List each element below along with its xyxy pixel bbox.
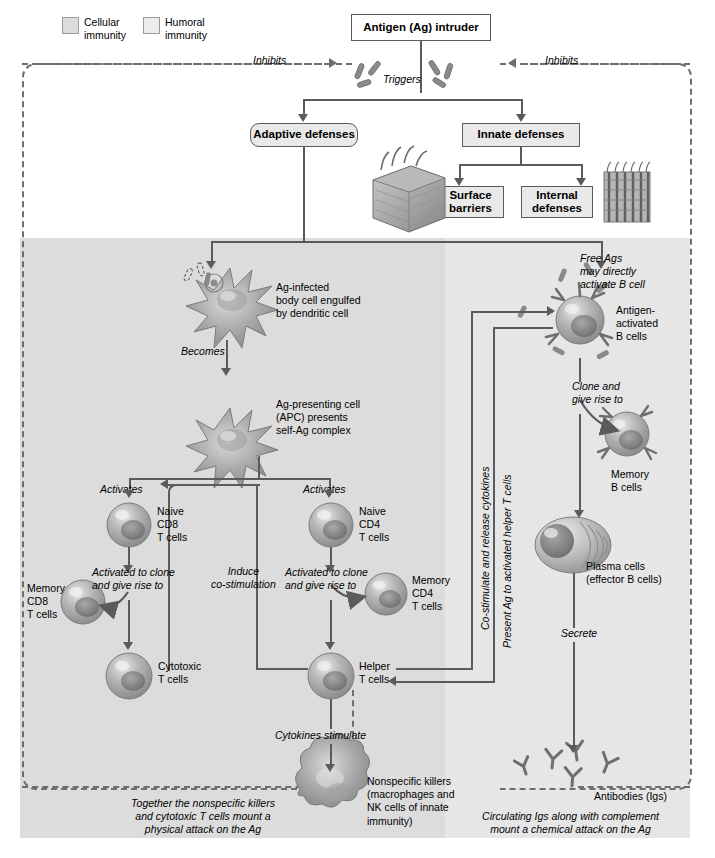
legend-swatch-humoral xyxy=(143,17,160,34)
becomes-stem xyxy=(226,340,228,370)
dendritic-arrow xyxy=(206,261,216,269)
label-memory-cd4: Memory CD4 T cells xyxy=(412,574,450,614)
inhibits-arrow-left xyxy=(329,58,337,68)
label-apc: Ag-presenting cell (APC) presents self-A… xyxy=(276,398,360,438)
innate-split-bar xyxy=(459,164,583,166)
costim-bus-top xyxy=(471,311,553,313)
label-activated-clone-left: Activated to clone and give rise to xyxy=(92,566,175,592)
immune-response-diagram: Cellular immunity Humoral immunity Inhib… xyxy=(0,0,715,858)
activates-label-left: Activates xyxy=(100,483,143,496)
skin-tissue-illustration xyxy=(373,146,445,232)
label-cytotoxic: Cytotoxic T cells xyxy=(158,660,201,686)
adaptive-stem xyxy=(303,147,305,243)
box-antigen-intruder[interactable]: Antigen (Ag) intruder xyxy=(351,14,491,41)
label-cytokines-stimulate: Cytokines stimulate xyxy=(275,729,366,742)
label-ag-infected: Ag-infected body cell engulfed by dendri… xyxy=(276,281,361,321)
label-costimulate-release: Co-stimulate and release cytokines xyxy=(479,467,492,630)
inhibits-label-right: Inhibits xyxy=(545,54,578,67)
label-nonspecific-killers: Nonspecific killers (macrophages and NK … xyxy=(367,775,455,828)
label-activated-clone-right: Activated to clone and give rise to xyxy=(285,566,368,592)
triggers-label: Triggers xyxy=(383,73,421,86)
label-antibodies: Antibodies (Igs) xyxy=(594,790,667,803)
caption-cellular: Together the nonspecific killers and cyt… xyxy=(63,797,343,837)
label-plasma: Plasma cells (effector B cells) xyxy=(586,560,662,586)
becomes-arrow xyxy=(221,368,231,376)
present-bus-riser xyxy=(493,327,495,683)
secrete-stem-b xyxy=(573,642,575,747)
innate-stem xyxy=(520,147,522,165)
label-memory-b: Memory B cells xyxy=(611,468,649,494)
label-free-ags: Free Ags may directly activate B cell xyxy=(580,252,645,292)
label-helper: Helper T cells xyxy=(359,660,390,686)
cytotoxic-arrow xyxy=(123,642,133,650)
cytokines-arrow xyxy=(325,764,335,772)
caption-humoral: Circulating Igs along with complement mo… xyxy=(453,810,688,836)
inhibits-arrow-right xyxy=(508,58,516,68)
cd4-clone-stem xyxy=(330,547,332,567)
secrete-arrow xyxy=(568,745,578,753)
bottom-dashed-left-arrow xyxy=(336,781,344,791)
becomes-label: Becomes xyxy=(181,345,225,358)
dendritic-drop xyxy=(211,241,213,263)
cytokines-stem-a xyxy=(330,699,332,729)
label-antigen-activated-b: Antigen- activated B cells xyxy=(616,304,658,344)
bottom-dashed-left xyxy=(22,786,342,788)
bcell-clone-stem xyxy=(579,358,581,382)
surface-arrow xyxy=(454,178,464,186)
defense-split-bar xyxy=(303,99,523,101)
label-memory-cd8: Memory CD8 T cells xyxy=(27,582,65,622)
box-surface-barriers[interactable]: Surface barriers xyxy=(437,186,504,218)
secrete-stem-a xyxy=(573,573,575,628)
present-bus-top xyxy=(493,327,553,329)
box-innate-defenses[interactable]: Innate defenses xyxy=(462,123,580,147)
cytotoxic-stem xyxy=(128,600,130,644)
costim-bus-bottom xyxy=(396,668,473,670)
costim-bus-riser xyxy=(471,311,473,670)
innate-arrow xyxy=(516,114,526,122)
apc-stem xyxy=(258,456,260,480)
helper-stem xyxy=(330,600,332,644)
adaptive-split-bar xyxy=(211,241,603,243)
present-bus-arrow xyxy=(388,676,396,686)
inhibits-label-left: Inhibits xyxy=(253,54,286,67)
costim-bus-arrow xyxy=(547,306,555,316)
activates-arrow-right xyxy=(324,490,334,498)
legend-label-humoral: Humoral immunity xyxy=(165,16,207,42)
box-internal-defenses[interactable]: Internal defenses xyxy=(521,186,593,218)
box-adaptive-defenses[interactable]: Adaptive defenses xyxy=(250,123,358,147)
cd8-clone-stem xyxy=(128,547,130,567)
present-bus-bottom xyxy=(396,681,495,683)
adaptive-arrow xyxy=(298,114,308,122)
cytokines-stem-b xyxy=(330,744,332,766)
internal-arrow xyxy=(576,178,586,186)
bottom-dashed-right xyxy=(578,786,690,788)
label-naive-cd4: Naive CD4 T cells xyxy=(359,505,389,545)
label-naive-cd8: Naive CD8 T cells xyxy=(157,505,187,545)
legend-swatch-cellular xyxy=(62,17,79,34)
label-clone-give-rise: Clone and give rise to xyxy=(572,380,623,406)
plasma-stem xyxy=(579,414,581,514)
induce-costim-top xyxy=(168,484,258,486)
activates-arrow-left xyxy=(124,490,134,498)
plasma-arrow xyxy=(574,510,584,518)
label-secrete: Secrete xyxy=(561,627,597,640)
legend-label-cellular: Cellular immunity xyxy=(84,16,126,42)
induce-costim-label: Induce co-stimulation xyxy=(211,565,276,591)
induce-costim-bottom xyxy=(256,668,308,670)
helper-arrow xyxy=(325,642,335,650)
induce-costim-arrow xyxy=(160,479,168,489)
label-present-ag: Present Ag to activated helper T cells xyxy=(501,474,514,648)
inhibit-loop-right xyxy=(500,63,692,790)
